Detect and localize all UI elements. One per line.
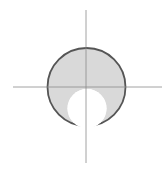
inner-circle-cutout <box>68 89 107 128</box>
diagram-canvas <box>0 0 166 175</box>
